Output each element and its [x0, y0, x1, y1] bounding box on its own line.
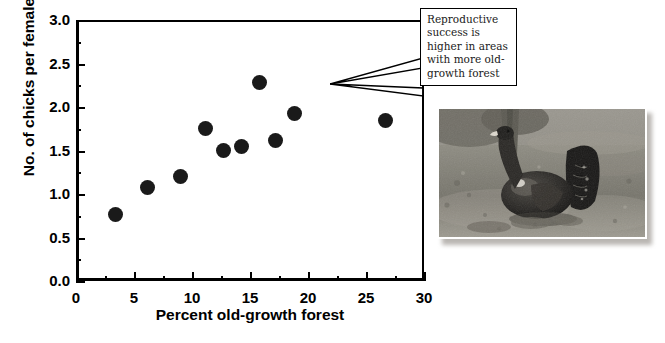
x-axis-tick	[308, 272, 310, 281]
x-axis-minor-tick	[395, 276, 397, 281]
callout-text-box: Reproductive success is higher in areas …	[420, 8, 517, 86]
x-axis-tick-label: 15	[230, 290, 270, 305]
x-axis-minor-tick	[337, 276, 339, 281]
y-axis-tick-label: 0.0	[24, 273, 70, 288]
x-axis-tick-label: 30	[404, 290, 444, 305]
x-axis-tick-label: 0	[56, 290, 96, 305]
x-axis-tick	[366, 272, 368, 281]
y-axis-tick	[76, 194, 85, 196]
y-axis-tick	[76, 20, 85, 22]
y-axis-tick	[76, 107, 85, 109]
x-axis-tick-label: 25	[346, 290, 386, 305]
x-axis-tick	[192, 272, 194, 281]
y-axis-minor-tick	[76, 259, 81, 261]
data-point	[234, 139, 249, 154]
x-axis-tick	[250, 272, 252, 281]
y-axis-minor-tick	[76, 172, 81, 174]
y-axis-tick	[76, 64, 85, 66]
data-point	[378, 113, 393, 128]
y-axis-minor-tick	[76, 216, 81, 218]
data-point	[268, 133, 283, 148]
x-axis-tick	[134, 272, 136, 281]
x-axis-tick	[424, 272, 426, 281]
y-axis-minor-tick	[76, 42, 81, 44]
data-point	[173, 169, 188, 184]
x-axis-minor-tick	[105, 276, 107, 281]
x-axis-title: Percent old-growth forest	[76, 306, 424, 324]
y-axis-tick	[76, 151, 85, 153]
x-axis-tick-label: 10	[172, 290, 212, 305]
data-point	[287, 106, 302, 121]
y-axis-title: No. of chicks per female	[20, 0, 38, 212]
y-axis-minor-tick	[76, 129, 81, 131]
x-axis-tick	[76, 272, 78, 281]
x-axis-tick-label: 20	[288, 290, 328, 305]
data-point	[108, 207, 123, 222]
data-point	[198, 121, 213, 136]
plot-area	[76, 20, 424, 281]
x-axis-tick-label: 5	[114, 290, 154, 305]
photo-image	[439, 109, 645, 237]
x-axis-minor-tick	[279, 276, 281, 281]
data-point	[140, 180, 155, 195]
y-axis-tick-label: 0.5	[24, 230, 70, 245]
y-axis-tick	[76, 238, 85, 240]
x-axis-minor-tick	[163, 276, 165, 281]
photo-capercaillie-grouse	[437, 107, 647, 239]
data-point	[216, 143, 231, 158]
y-axis-minor-tick	[76, 85, 81, 87]
figure-scatter-with-photo: 0.00.51.01.52.02.53.0051015202530 No. of…	[0, 0, 665, 343]
y-axis-tick	[76, 281, 85, 283]
data-point	[252, 75, 267, 90]
x-axis-minor-tick	[221, 276, 223, 281]
